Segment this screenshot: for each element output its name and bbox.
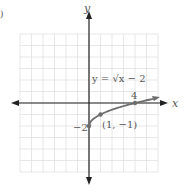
arrow-down-icon — [86, 177, 92, 185]
label-point-1: (1, −1) — [102, 119, 137, 130]
label-x4: 4 — [131, 90, 137, 101]
label-y-intercept: −2 — [73, 122, 88, 133]
graph: ) x y y = √x − 2 4 (1, −1) −2 — [0, 0, 187, 195]
function-label: y = √x − 2 — [91, 73, 146, 84]
curve-arrow-icon — [152, 96, 160, 101]
point-marker — [98, 112, 102, 116]
y-axis — [86, 11, 92, 185]
y-axis-label: y — [83, 2, 91, 15]
corner-mark: ) — [0, 9, 4, 19]
x-axis-label: x — [172, 97, 179, 110]
point-marker — [133, 101, 137, 105]
arrow-right-icon — [160, 100, 168, 106]
arrow-left-icon — [11, 100, 19, 106]
